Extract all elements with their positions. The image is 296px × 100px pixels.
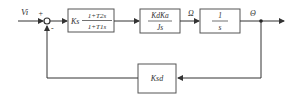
controller-numerator: 1+T2s [88,12,107,20]
block-diagram: Vi + - Ks 1+T2s 1+T1s KdKa Js Ω 1 s Θ Ks… [0,0,296,100]
controller-block: Ks 1+T2s 1+T1s [68,9,114,32]
integrator-numerator: 1 [218,11,222,20]
feedback-line-left [47,26,138,78]
input-label: Vi [21,7,29,17]
motor-numerator: KdKa [150,11,169,20]
feedback-block: Ksd [138,64,176,93]
summing-junction [44,18,50,24]
motor-denominator: Js [157,23,163,32]
theta-label: Θ [250,9,256,18]
integrator-block: 1 s [200,9,240,33]
feedback-gain: Ksd [150,74,164,83]
minus-sign: - [51,24,54,33]
controller-gain: Ks [70,17,79,26]
omega-label: Ω [188,9,194,18]
plus-sign: + [38,9,43,18]
controller-denominator: 1+T1s [88,23,107,31]
motor-block: KdKa Js [140,9,180,33]
integrator-denominator: s [219,23,222,32]
